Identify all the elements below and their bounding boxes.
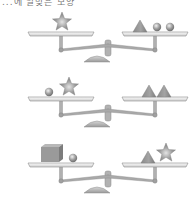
balance-scale-3 [0, 131, 194, 191]
star-icon [60, 77, 79, 95]
star-icon [157, 143, 176, 161]
sphere-icon [69, 154, 77, 162]
triangle-icon [157, 85, 171, 97]
triangle-icon [141, 151, 155, 163]
right-pan-items [142, 85, 171, 97]
balance-icon [28, 32, 188, 62]
left-pan-items [41, 144, 77, 162]
sphere-icon [45, 88, 53, 96]
cube-icon [41, 144, 63, 162]
triangle-icon [142, 85, 156, 97]
left-pan-items [53, 12, 72, 30]
star-icon [53, 12, 72, 30]
balance-icon [28, 97, 188, 127]
balance-icon [28, 163, 188, 193]
balance-scale-1 [0, 0, 194, 60]
sphere-icon [166, 23, 174, 31]
balance-scale-2 [0, 65, 194, 125]
sphere-icon [153, 23, 161, 31]
triangle-icon [133, 20, 147, 32]
left-pan-items [45, 77, 79, 96]
right-pan-items [141, 143, 176, 163]
right-pan-items [133, 20, 174, 32]
